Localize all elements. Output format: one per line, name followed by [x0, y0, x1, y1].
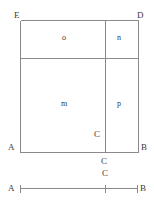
- vertex-label-A: A: [8, 143, 15, 152]
- vertex-label-E: E: [14, 11, 20, 20]
- geometry-figure: E D A B C C o n m p A C B: [0, 0, 154, 205]
- segment-label-B: B: [140, 184, 146, 193]
- segment-label-C: C: [102, 169, 108, 178]
- segment-label-A: A: [8, 184, 15, 193]
- vertex-label-B: B: [141, 143, 147, 152]
- vertex-label-C-below: C: [101, 157, 107, 166]
- region-label-m: m: [61, 100, 67, 108]
- vertex-label-D: D: [137, 11, 144, 20]
- region-label-p: p: [117, 100, 121, 108]
- region-label-n: n: [117, 34, 121, 42]
- region-label-o: o: [62, 34, 66, 42]
- figure-lines: [0, 0, 154, 205]
- vertex-label-C-inside: C: [94, 130, 100, 139]
